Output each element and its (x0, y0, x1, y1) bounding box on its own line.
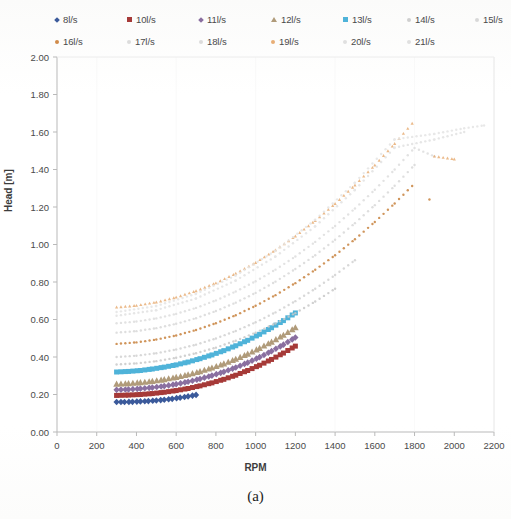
data-point-marker (374, 204, 376, 206)
data-point-marker (263, 300, 265, 302)
data-point-marker (235, 274, 237, 276)
data-point-marker (270, 252, 272, 254)
data-point-marker (307, 259, 309, 261)
data-point-marker (327, 279, 329, 281)
data-point-marker (292, 283, 294, 285)
data-point-marker (433, 133, 435, 135)
data-point-marker (232, 340, 234, 342)
data-point-marker (411, 136, 413, 138)
y-tick-label: 0.60 (31, 314, 50, 325)
data-point-marker (303, 228, 306, 231)
data-point-marker (239, 272, 241, 274)
data-point-marker (142, 392, 147, 397)
data-point-marker (303, 262, 305, 264)
data-point-marker (195, 307, 197, 309)
data-point-marker (424, 134, 426, 136)
data-point-marker (208, 287, 210, 289)
data-point-marker (219, 308, 221, 310)
data-point-marker (261, 361, 266, 366)
data-point-marker (212, 323, 214, 325)
data-point-marker (259, 302, 261, 304)
data-point-marker (126, 369, 131, 374)
y-axis-title: Head [m] (3, 169, 14, 212)
data-point-marker (129, 321, 131, 323)
data-point-marker (144, 329, 146, 331)
data-point-marker (199, 327, 201, 329)
data-point-marker (378, 217, 380, 219)
data-point-marker (148, 328, 150, 330)
data-point-marker (354, 222, 356, 224)
data-point-marker (287, 304, 289, 306)
data-point-marker (148, 339, 150, 341)
data-point-marker (428, 139, 430, 141)
x-tick-label: 200 (89, 440, 105, 451)
data-point-marker (347, 264, 349, 266)
data-point-marker (354, 181, 356, 183)
data-point-marker (294, 235, 297, 238)
data-point-marker (192, 344, 194, 346)
data-point-marker (338, 198, 341, 201)
data-point-marker (217, 287, 219, 289)
scatter-chart: 0.000.200.400.600.801.001.201.401.601.80… (0, 0, 511, 486)
data-point-marker (248, 271, 250, 273)
data-point-marker (228, 293, 230, 295)
data-point-marker (135, 330, 137, 332)
data-point-marker (133, 355, 135, 357)
data-point-marker (208, 302, 210, 304)
data-point-marker (299, 265, 301, 267)
data-point-marker (140, 362, 142, 364)
data-point-marker (254, 321, 256, 323)
data-point-marker (212, 311, 214, 313)
data-point-marker (338, 271, 340, 273)
data-point-marker (272, 270, 274, 272)
data-point-marker (303, 276, 305, 278)
data-point-marker (431, 154, 433, 156)
data-point-marker (129, 309, 131, 311)
data-point-marker (358, 218, 360, 220)
data-point-marker (415, 142, 417, 144)
data-point-marker (263, 327, 265, 329)
data-point-marker (155, 352, 157, 354)
x-tick-label: 1400 (325, 440, 346, 451)
data-point-marker (336, 198, 338, 200)
data-point-marker (142, 311, 144, 313)
data-point-marker (139, 303, 142, 306)
data-point-marker (177, 298, 179, 300)
data-point-marker (287, 315, 289, 317)
data-point-marker (215, 310, 217, 312)
data-point-marker (150, 367, 155, 372)
data-point-marker (192, 353, 194, 355)
data-point-marker (188, 291, 191, 294)
data-point-marker (215, 299, 217, 301)
data-point-marker (186, 300, 188, 302)
data-point-marker (351, 240, 353, 242)
data-point-marker (190, 299, 192, 301)
data-point-marker (358, 179, 361, 182)
data-point-marker (274, 294, 276, 296)
data-point-marker (351, 261, 353, 263)
data-point-marker (389, 151, 391, 153)
data-point-marker (148, 302, 151, 305)
data-point-marker (367, 195, 369, 197)
data-point-marker (135, 354, 137, 356)
data-point-marker (459, 128, 461, 130)
data-point-marker (144, 302, 147, 305)
data-point-marker (215, 346, 217, 348)
data-point-marker (130, 369, 135, 374)
data-point-marker (115, 331, 117, 333)
data-point-marker (287, 260, 289, 262)
data-point-marker (411, 166, 413, 168)
data-point-marker (281, 351, 286, 356)
legend-item-17l-per-s: 17l/s (127, 37, 155, 47)
data-point-marker (259, 277, 261, 279)
data-point-marker (296, 232, 298, 234)
data-point-marker (332, 240, 334, 242)
data-point-marker (334, 288, 336, 290)
legend-label: 21l/s (415, 37, 435, 47)
data-point-marker (135, 320, 137, 322)
data-point-marker (387, 209, 389, 211)
data-point-marker (418, 149, 420, 151)
data-point-marker (133, 321, 135, 323)
data-point-marker (367, 167, 369, 169)
data-point-marker (279, 246, 281, 248)
